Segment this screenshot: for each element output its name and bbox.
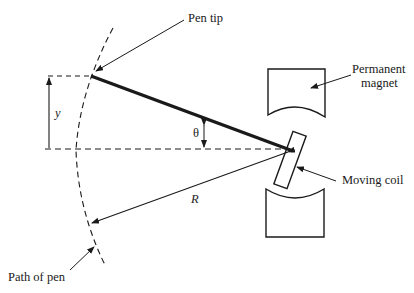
pen-tip-leader (96, 20, 184, 71)
pen-tip-label: Pen tip (188, 11, 223, 25)
coil-leader (297, 167, 336, 181)
y-label: y (53, 106, 61, 120)
path-of-pen-label: Path of pen (8, 270, 66, 284)
upper-magnet (268, 69, 325, 117)
path-of-pen-leader (70, 247, 94, 270)
lower-magnet (266, 189, 324, 237)
pen-recorder-diagram: Pen tip Permanent magnet Moving coil Pat… (0, 0, 414, 293)
permanent-magnet-label-line2: magnet (361, 76, 398, 90)
pen-arm (91, 76, 293, 151)
pen-path-arc (76, 28, 113, 265)
radius-arrow (92, 152, 288, 223)
r-label: R (190, 192, 199, 206)
permanent-magnet-label-line1: Permanent (352, 62, 406, 76)
moving-coil-label: Moving coil (342, 173, 404, 187)
magnet-leader (311, 75, 351, 88)
theta-label: θ (193, 126, 199, 140)
moving-coil (274, 131, 306, 188)
